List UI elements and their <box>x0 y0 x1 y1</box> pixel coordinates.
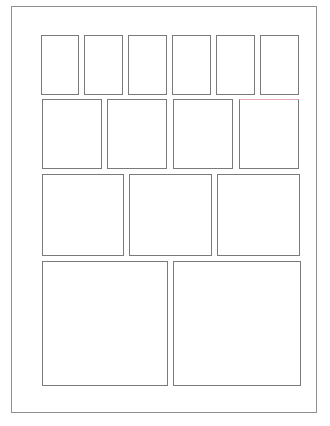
layout-cell[interactable] <box>173 99 233 169</box>
layout-cell[interactable] <box>129 174 212 256</box>
layout-cell[interactable] <box>42 261 168 386</box>
layout-cell[interactable] <box>173 261 301 386</box>
layout-cell[interactable] <box>216 35 255 95</box>
layout-cell[interactable] <box>42 99 102 169</box>
layout-cell[interactable] <box>128 35 167 95</box>
layout-cell[interactable] <box>217 174 300 256</box>
layout-cell[interactable] <box>239 99 299 169</box>
layout-cell[interactable] <box>84 35 123 95</box>
layout-cell[interactable] <box>42 174 124 256</box>
layout-cell[interactable] <box>172 35 211 95</box>
layout-cell[interactable] <box>107 99 167 169</box>
layout-cell[interactable] <box>260 35 299 95</box>
page-thumbnail <box>0 0 330 426</box>
layout-cell[interactable] <box>41 35 79 95</box>
